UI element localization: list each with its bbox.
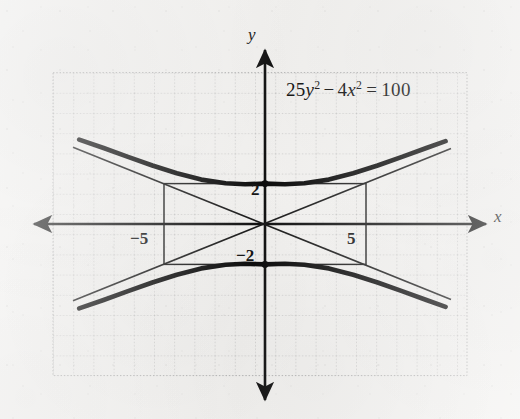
equation-label: 25y2−4x2=100: [286, 79, 411, 101]
equation-coef-2: 4: [338, 79, 348, 100]
equation-operator: −: [321, 79, 338, 100]
tick-label-y-negative-2: −2: [236, 246, 254, 266]
tick-label-y-positive-2: 2: [251, 180, 260, 200]
tick-label-x-negative-5: −5: [130, 229, 148, 249]
equation-right-hand-side: 100: [381, 79, 410, 100]
x-axis-label: x: [494, 207, 502, 227]
equation-exponent-1: 2: [314, 79, 320, 92]
equation-var-2: x: [347, 79, 356, 100]
vertex-point-positive: [262, 180, 269, 187]
vertex-point-negative: [262, 261, 269, 268]
y-axis-label: y: [248, 25, 256, 45]
equation-equals-sign: =: [362, 79, 381, 100]
equation-coef-1: 25: [286, 79, 306, 100]
figure-canvas: 25y2−4x2=100 y x −5 5 2 −2: [0, 0, 520, 419]
hyperbola-figure: [0, 0, 520, 419]
tick-label-x-positive-5: 5: [347, 229, 356, 249]
